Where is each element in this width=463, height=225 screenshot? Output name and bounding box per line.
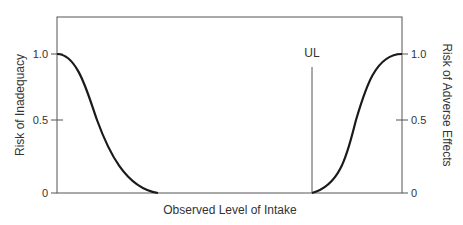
ul-label: UL — [304, 46, 320, 60]
y-axis-label-right: Risk of Adverse Effects — [440, 43, 454, 166]
right-tick-label-0: 0 — [411, 187, 417, 199]
x-axis-label: Observed Level of Intake — [163, 203, 297, 217]
left-tick-label-0: 0 — [42, 187, 48, 199]
y-axis-label-left: Risk of Inadequacy — [13, 54, 27, 156]
left-tick-label-05: 0.5 — [33, 114, 48, 126]
plot-frame — [57, 17, 402, 193]
right-tick-label-1: 1.0 — [411, 48, 426, 60]
right-tick-label-05: 0.5 — [411, 114, 426, 126]
adverse-effects-curve — [312, 54, 402, 193]
left-tick-label-1: 1.0 — [33, 48, 48, 60]
risk-chart: 1.0 0.5 0 1.0 0.5 0 UL Observed Level of… — [0, 0, 463, 225]
inadequacy-curve — [57, 54, 158, 193]
